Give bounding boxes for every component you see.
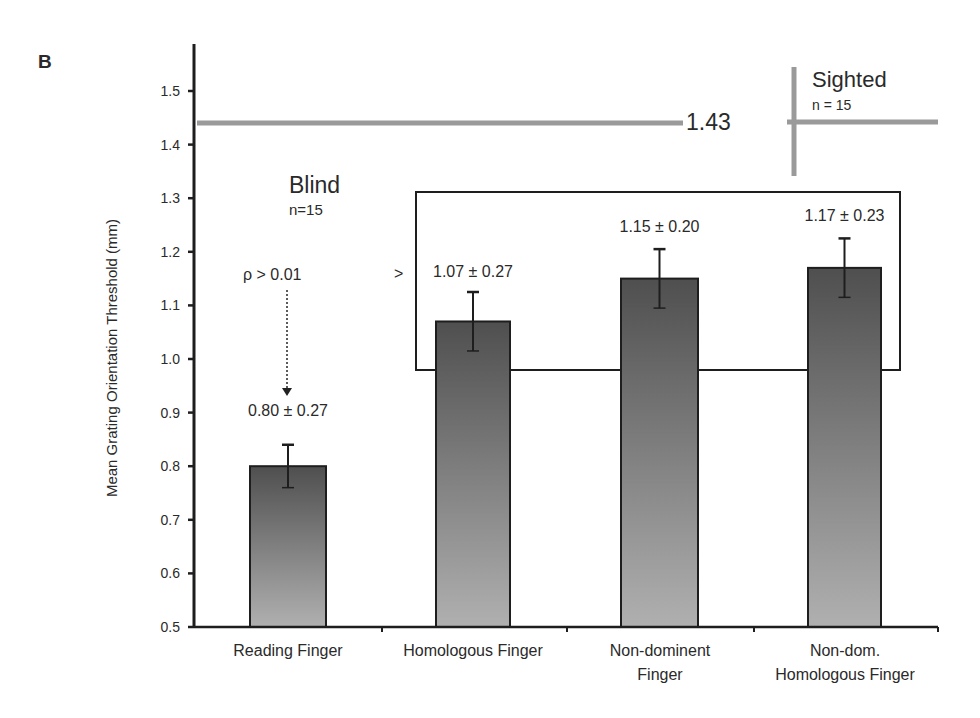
y-tick-label: 0.6 [161,565,181,581]
bar-value-label: 1.07 ± 0.27 [433,263,513,280]
bar-chart: B Mean Grating Orientation Threshold (mm… [0,0,980,718]
bar-rect [436,321,510,627]
y-tick-label: 0.9 [161,405,181,421]
bar-1: 0.80 ± 0.27 [248,402,328,627]
blind-n-label: n=15 [289,201,323,218]
x-category-label: Finger [637,666,683,683]
y-tick-label: 1.2 [161,244,181,260]
y-tick-label: 0.5 [161,619,181,635]
bar-value-label: 0.80 ± 0.27 [248,402,328,419]
bar-rect [621,279,698,627]
y-axis-ticks: 0.50.60.70.80.91.01.11.21.31.41.5 [161,83,194,635]
sighted-reference: 1.43 Sighted n = 15 [197,67,938,176]
bar-4: 1.17 ± 0.23 [805,207,885,627]
y-tick-label: 1.4 [161,137,181,153]
bar-2: 1.07 ± 0.27 [433,263,513,627]
y-tick-label: 0.7 [161,512,181,528]
y-tick-label: 1.1 [161,297,181,313]
x-category-label: Non-dom. [810,642,880,659]
y-tick-label: 1.0 [161,351,181,367]
arrow-head-icon [282,388,292,396]
comparison-symbol: > [394,265,403,282]
x-category-label: Reading Finger [233,642,343,659]
bar-value-label: 1.15 ± 0.20 [620,218,700,235]
x-category-label: Non-dominent [610,642,711,659]
y-tick-label: 1.3 [161,190,181,206]
bar-rect [250,466,326,627]
sighted-group-label: Sighted [812,67,887,92]
p-value-annotation: ρ > 0.01 [243,266,302,396]
x-category-label: Homologous Finger [775,666,915,683]
x-axis-labels: Reading FingerHomologous FingerNon-domin… [233,642,915,683]
bars-group: 0.80 ± 0.271.07 ± 0.271.15 ± 0.201.17 ± … [248,207,885,627]
x-category-label: Homologous Finger [403,642,543,659]
reference-value-label: 1.43 [686,109,731,135]
y-axis-title: Mean Grating Orientation Threshold (mm) [103,219,120,497]
bar-3: 1.15 ± 0.20 [620,218,700,627]
bar-value-label: 1.17 ± 0.23 [805,207,885,224]
blind-group-label: Blind [289,172,340,198]
y-tick-label: 1.5 [161,83,181,99]
bar-rect [808,268,881,627]
y-tick-label: 0.8 [161,458,181,474]
sighted-n-label: n = 15 [812,97,852,113]
panel-label: B [38,51,52,72]
p-value-label: ρ > 0.01 [243,266,302,283]
